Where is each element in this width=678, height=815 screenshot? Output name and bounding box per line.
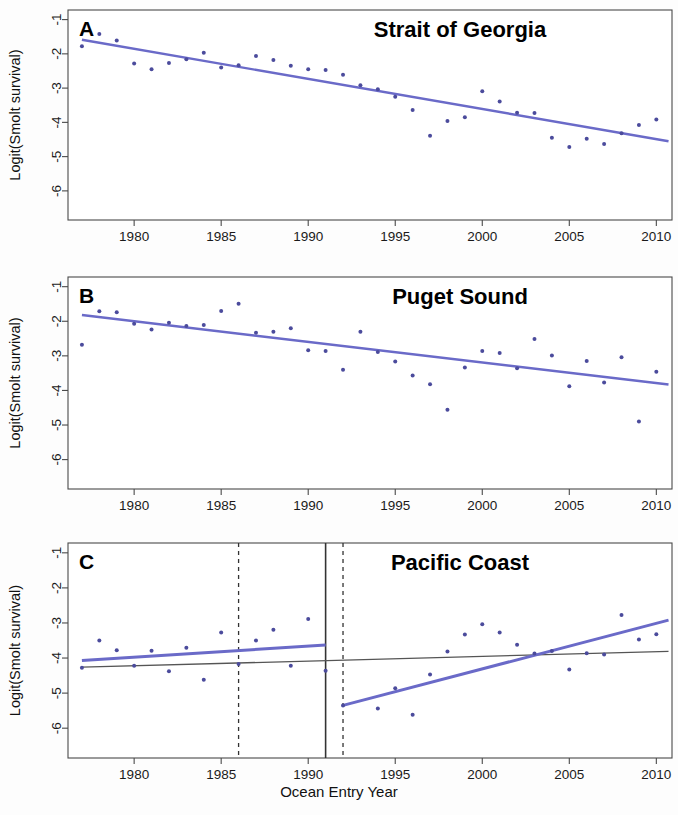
y-tick-label: -1 [50, 14, 65, 26]
data-point [428, 673, 432, 677]
data-point [637, 637, 641, 641]
x-tick-label: 2000 [467, 229, 497, 244]
data-point [654, 118, 658, 122]
panel-title: Strait of Georgia [374, 17, 547, 42]
panel-letter-b: B [79, 284, 94, 307]
data-point [306, 348, 310, 352]
x-tick-label: 2005 [554, 229, 584, 244]
data-point [550, 136, 554, 140]
y-tick-label: -6 [50, 185, 65, 197]
data-point [567, 668, 571, 672]
x-tick-label: 1995 [380, 498, 410, 513]
x-tick-label: 2010 [641, 229, 671, 244]
data-point [393, 359, 397, 363]
data-point [445, 119, 449, 123]
data-point [341, 703, 345, 707]
x-tick-label: 1985 [206, 498, 236, 513]
x-tick-label: 1980 [119, 767, 149, 782]
data-point [306, 617, 310, 621]
data-point [654, 370, 658, 374]
data-point [202, 678, 206, 682]
data-point [132, 61, 136, 65]
x-tick-label: 1980 [119, 498, 149, 513]
data-point [271, 58, 275, 62]
data-point [219, 66, 223, 70]
data-point [289, 326, 293, 330]
panel-pacific-coast: -1-2-3-4-5-61980198519901995200020052010… [0, 530, 678, 815]
y-tick-label: -1 [50, 547, 65, 559]
y-tick-label: -6 [50, 454, 65, 466]
y-tick-label: -2 [50, 48, 65, 60]
plot-area-b: -1-2-3-4-5-61980198519901995200020052010… [0, 262, 678, 530]
data-point [480, 349, 484, 353]
data-point [254, 54, 258, 58]
y-axis-title: Logit(Smolt survival) [7, 317, 23, 448]
data-point [115, 38, 119, 42]
data-point [132, 664, 136, 668]
data-point [167, 669, 171, 673]
data-point [324, 349, 328, 353]
data-point [411, 108, 415, 112]
plot-border [68, 277, 672, 489]
y-tick-label: -4 [50, 384, 65, 396]
data-point [515, 111, 519, 115]
data-point [411, 374, 415, 378]
plot-border [68, 543, 672, 758]
data-point [532, 111, 536, 115]
data-point [498, 99, 502, 103]
data-point [358, 83, 362, 87]
x-axis-title-holder: Ocean Entry Year [0, 783, 678, 800]
x-tick-label: 1990 [293, 767, 323, 782]
data-point [585, 359, 589, 363]
data-point [80, 666, 84, 670]
x-tick-label: 2005 [554, 767, 584, 782]
data-point [306, 67, 310, 71]
data-point [115, 648, 119, 652]
data-point [97, 639, 101, 643]
data-point [602, 380, 606, 384]
y-tick-label: -3 [50, 617, 65, 629]
plot-area-c: -1-2-3-4-5-61980198519901995200020052010… [0, 530, 678, 815]
plot-area-a: -1-2-3-4-5-61980198519901995200020052010… [0, 0, 678, 262]
panel-title: Pacific Coast [391, 550, 530, 575]
data-point [97, 32, 101, 36]
y-tick-label: -3 [50, 350, 65, 362]
data-point [463, 366, 467, 370]
data-point [202, 323, 206, 327]
data-point [184, 324, 188, 328]
data-point [376, 350, 380, 354]
data-point [445, 649, 449, 653]
data-point [254, 639, 258, 643]
y-axis-title: Logit(Smolt survival) [7, 585, 23, 716]
x-tick-label: 2000 [467, 767, 497, 782]
data-point [637, 123, 641, 127]
panel-strait-of-georgia: -1-2-3-4-5-61980198519901995200020052010… [0, 0, 678, 262]
data-point [376, 87, 380, 91]
data-point [271, 330, 275, 334]
data-point [289, 64, 293, 68]
data-point [150, 67, 154, 71]
data-point [585, 651, 589, 655]
x-tick-label: 1985 [206, 229, 236, 244]
data-point [324, 68, 328, 72]
data-point [150, 649, 154, 653]
data-point [567, 145, 571, 149]
data-point [184, 646, 188, 650]
y-tick-label: -4 [50, 652, 65, 664]
data-point [498, 351, 502, 355]
panel-letter-c: C [79, 550, 94, 573]
data-point [602, 653, 606, 657]
data-point [132, 322, 136, 326]
data-point [80, 343, 84, 347]
y-tick-label: -2 [50, 315, 65, 327]
data-point [428, 382, 432, 386]
y-tick-label: -6 [50, 722, 65, 734]
y-tick-label: -3 [50, 82, 65, 94]
data-point [184, 57, 188, 61]
data-point [237, 302, 241, 306]
data-point [80, 44, 84, 48]
data-point [167, 61, 171, 65]
data-point [463, 633, 467, 637]
data-point [620, 355, 624, 359]
data-point [271, 628, 275, 632]
